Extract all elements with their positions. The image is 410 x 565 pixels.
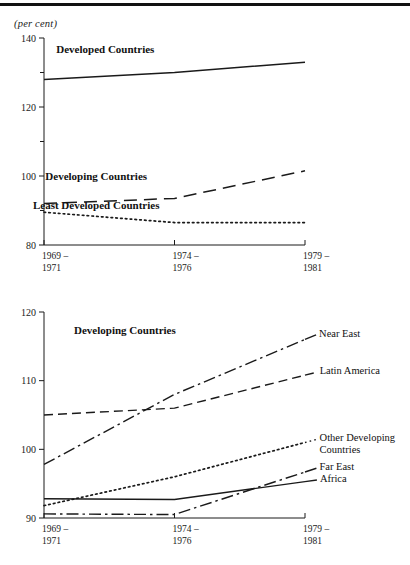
x-axis-tick-label: 1974 – 1976 bbox=[173, 251, 199, 274]
series-leader-1 bbox=[305, 372, 317, 375]
y-axis-tick-label: 100 bbox=[21, 171, 36, 182]
chart-bottom-title: Developing Countries bbox=[74, 324, 176, 336]
series-line-0 bbox=[44, 62, 305, 79]
series-leader-2 bbox=[305, 439, 317, 442]
series-leader-4 bbox=[305, 480, 317, 482]
chart-top-canvas: 80100120140 bbox=[0, 28, 410, 283]
y-axis-tick-label: 120 bbox=[21, 307, 36, 318]
series-label-0: Near East bbox=[319, 328, 360, 340]
chart-top-developed-developing-least: 80100120140 Developed CountriesDevelopin… bbox=[0, 28, 410, 283]
series-title-0: Developed Countries bbox=[56, 43, 154, 55]
header-rule bbox=[0, 3, 410, 6]
series-line-0 bbox=[44, 339, 305, 464]
series-line-3 bbox=[44, 472, 305, 515]
series-label-2: Other Developing Countries bbox=[320, 432, 396, 455]
x-axis-tick-label: 1969 – 1971 bbox=[42, 524, 68, 547]
x-axis-tick-label: 1974 – 1976 bbox=[173, 524, 199, 547]
y-axis-tick-label: 110 bbox=[21, 375, 36, 386]
x-axis-tick-label: 1969 – 1971 bbox=[42, 251, 68, 274]
x-axis-tick-label: 1979 – 1981 bbox=[303, 251, 329, 274]
y-axis-tick-label: 140 bbox=[21, 33, 36, 44]
y-axis-tick-label: 80 bbox=[26, 240, 36, 251]
series-line-2 bbox=[44, 442, 305, 505]
y-axis-tick-label: 90 bbox=[26, 513, 36, 524]
chart-bottom-developing-regions: 90100110120 Near EastLatin AmericaOther … bbox=[0, 300, 410, 565]
series-leader-3 bbox=[305, 468, 316, 472]
series-line-1 bbox=[44, 375, 305, 415]
series-label-3: Far East bbox=[319, 461, 354, 473]
series-line-2 bbox=[44, 212, 305, 222]
series-leader-0 bbox=[305, 335, 316, 340]
series-title-1: Developing Countries bbox=[45, 170, 147, 182]
series-label-1: Latin America bbox=[320, 365, 380, 377]
y-axis-tick-label: 100 bbox=[21, 444, 36, 455]
y-axis-tick-label: 120 bbox=[21, 102, 36, 113]
series-label-4: Africa bbox=[320, 473, 347, 485]
series-title-2: Least Developed Countries bbox=[33, 199, 160, 211]
x-axis-tick-label: 1979 – 1981 bbox=[303, 524, 329, 547]
